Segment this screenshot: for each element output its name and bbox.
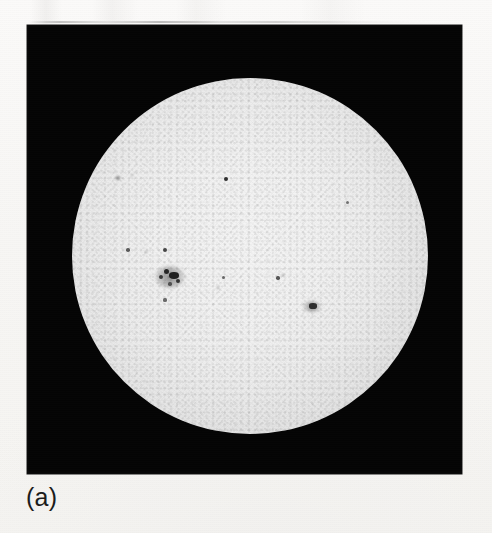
photospheric-granulation-texture bbox=[72, 78, 428, 434]
halftone-screen-texture bbox=[72, 78, 428, 434]
figure-page: (a) bbox=[0, 0, 492, 533]
solar-photograph-plate bbox=[27, 25, 462, 474]
scan-artifact-streaks bbox=[0, 0, 492, 26]
scan-artifact-line bbox=[28, 21, 428, 23]
solar-disk bbox=[72, 78, 428, 434]
panel-label: (a) bbox=[26, 482, 57, 512]
